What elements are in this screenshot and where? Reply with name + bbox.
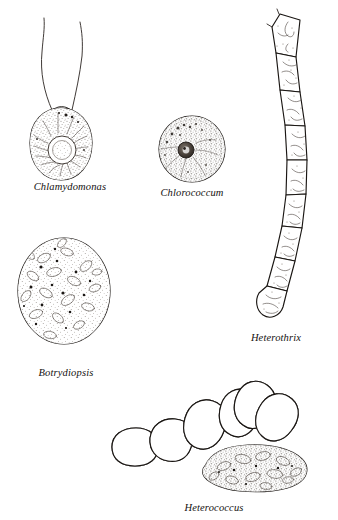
label-heterothrix: Heterothrix xyxy=(250,332,301,343)
heterothrix-cell xyxy=(285,125,307,160)
heterococcus-elongate-cell xyxy=(203,445,307,492)
label-chlamydomonas: Chlamydomonas xyxy=(34,181,107,192)
heterothrix-cell xyxy=(276,53,300,92)
label-heterococcus: Heterococcus xyxy=(183,502,243,513)
heterothrix-cell xyxy=(286,160,307,195)
label-botrydiopsis: Botrydiopsis xyxy=(39,367,94,378)
heterothrix-cell xyxy=(282,194,306,228)
illustration-plate: Chlamydomonas xyxy=(0,0,338,520)
label-chlorococcum: Chlorococcum xyxy=(160,187,223,198)
